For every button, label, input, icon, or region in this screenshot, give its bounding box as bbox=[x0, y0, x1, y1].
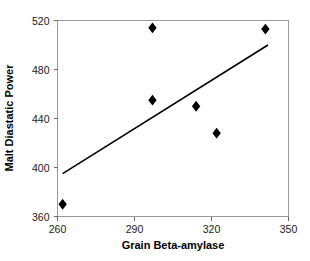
x-tick-label: 290 bbox=[126, 223, 144, 235]
y-axis-title: Malt Diastatic Power bbox=[3, 64, 15, 172]
y-tick-label: 360 bbox=[32, 211, 50, 223]
x-tick-label: 260 bbox=[49, 223, 67, 235]
x-tick-label: 350 bbox=[280, 223, 298, 235]
scatter-chart: 260290320350 360400440480520 Grain Beta-… bbox=[0, 0, 310, 261]
y-tick-label: 400 bbox=[32, 162, 50, 174]
chart-canvas: 260290320350 360400440480520 Grain Beta-… bbox=[0, 0, 310, 261]
y-tick-label: 440 bbox=[32, 113, 50, 125]
x-axis-title: Grain Beta-amylase bbox=[122, 239, 225, 251]
y-tick-label: 520 bbox=[32, 15, 50, 27]
y-tick-label: 480 bbox=[32, 64, 50, 76]
x-tick-label: 320 bbox=[203, 223, 221, 235]
